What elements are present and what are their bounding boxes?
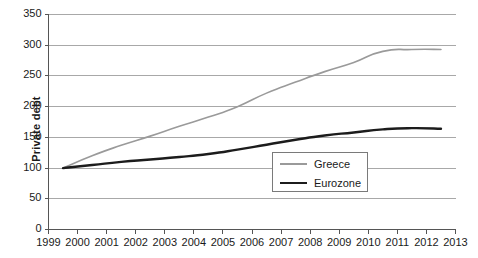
y-tick-label-300: 300 [12, 38, 42, 50]
gridlines [49, 15, 456, 230]
x-tick-label-2010: 2010 [352, 236, 384, 248]
series-line-greece [63, 49, 441, 168]
chart-legend: Greece Eurozone [272, 152, 368, 192]
x-tick-label-2012: 2012 [410, 236, 442, 248]
x-tick-label-2004: 2004 [178, 236, 210, 248]
axis-lines [49, 15, 456, 230]
y-tick-label-350: 350 [12, 7, 42, 19]
x-tick-label-2011: 2011 [381, 236, 413, 248]
x-tick-label-2007: 2007 [265, 236, 297, 248]
legend-swatch-eurozone [280, 182, 307, 184]
x-tick-label-2008: 2008 [294, 236, 326, 248]
x-tick-label-2013: 2013 [440, 236, 472, 248]
legend-entry-eurozone: Eurozone [273, 173, 367, 192]
legend-label-greece: Greece [314, 158, 350, 170]
x-tick-label-2003: 2003 [149, 236, 181, 248]
x-tick-label-2001: 2001 [91, 236, 123, 248]
x-tick-label-1999: 1999 [33, 236, 65, 248]
y-tick-label-250: 250 [12, 68, 42, 80]
x-tick-label-2000: 2000 [62, 236, 94, 248]
y-tick-label-100: 100 [12, 161, 42, 173]
legend-swatch-greece [280, 163, 307, 165]
y-tick-label-50: 50 [12, 191, 42, 203]
x-tick-label-2002: 2002 [120, 236, 152, 248]
axis-ticks [45, 15, 456, 234]
x-tick-label-2009: 2009 [323, 236, 355, 248]
plot-area [0, 0, 478, 258]
legend-entry-greece: Greece [273, 154, 367, 173]
series-lines [63, 49, 441, 168]
y-tick-label-200: 200 [12, 99, 42, 111]
y-tick-label-0: 0 [12, 222, 42, 234]
series-line-eurozone [63, 128, 441, 168]
private-debt-line-chart: Private debt 050100150200250300350 19992… [0, 0, 478, 258]
x-tick-label-2005: 2005 [207, 236, 239, 248]
legend-label-eurozone: Eurozone [314, 177, 361, 189]
y-tick-label-150: 150 [12, 130, 42, 142]
x-tick-label-2006: 2006 [236, 236, 268, 248]
